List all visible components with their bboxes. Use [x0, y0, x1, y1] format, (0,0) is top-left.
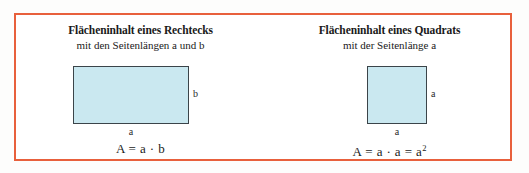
rectangle-shape [73, 66, 189, 124]
panel-square: Flächeninhalt eines Quadrats mit der Sei… [265, 15, 514, 163]
square-area-formula-base: A = a · a = a [353, 144, 423, 159]
square-area-formula: A = a · a = a2 [265, 141, 514, 159]
square-side-label-a-right: a [431, 88, 435, 99]
area-formulas-figure: Flächeninhalt eines Rechtecks mit den Se… [0, 0, 529, 173]
panel-rectangle-title: Flächeninhalt eines Rechtecks [16, 24, 265, 37]
rectangle-side-label-b: b [193, 88, 198, 99]
panel-rectangle: Flächeninhalt eines Rechtecks mit den Se… [16, 15, 265, 163]
panel-square-title: Flächeninhalt eines Quadrats [265, 24, 514, 37]
square-side-label-a-bottom: a [367, 126, 427, 137]
orange-frame: Flächeninhalt eines Rechtecks mit den Se… [14, 13, 512, 161]
rectangle-side-label-a: a [73, 126, 189, 137]
square-area-formula-exponent: 2 [422, 143, 426, 153]
square-shape [367, 66, 427, 124]
panel-rectangle-subtitle: mit den Seitenlängen a und b [16, 39, 265, 52]
rectangle-area-formula: A = a · b [16, 141, 265, 156]
panel-square-subtitle: mit der Seitenlänge a [265, 39, 514, 52]
